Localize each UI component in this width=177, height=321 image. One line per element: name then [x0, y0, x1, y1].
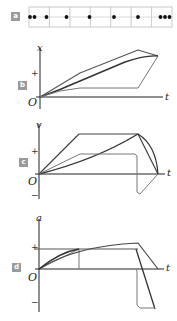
panel-d-curves [39, 243, 158, 309]
panel-d-graph [0, 0, 177, 321]
panel-d-axes [35, 219, 164, 312]
